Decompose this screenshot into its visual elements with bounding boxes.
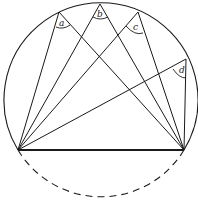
inscribed-angle-diagram: a b c d — [0, 0, 198, 211]
line-a-left — [18, 12, 59, 150]
label-d: d — [179, 65, 185, 75]
label-a: a — [59, 18, 64, 28]
circle-lower-dashed-arc — [18, 150, 184, 197]
label-b: b — [97, 9, 103, 19]
line-b-right — [100, 4, 184, 150]
label-c: c — [133, 22, 138, 32]
circle-upper-arc — [4, 3, 198, 150]
